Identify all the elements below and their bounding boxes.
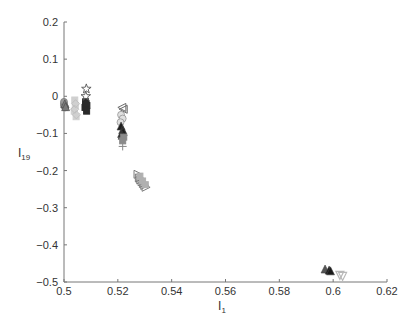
- y-axis-label: I19: [18, 146, 31, 162]
- y-tick-label: −0.4: [36, 239, 58, 251]
- axes: 0.50.520.540.560.580.60.620.20.10−0.1−0.…: [36, 16, 397, 297]
- x-axis-label: I1: [218, 299, 226, 315]
- data-points: [61, 84, 347, 281]
- y-tick-label: 0: [52, 90, 58, 102]
- scatter-chart: 0.50.520.540.560.580.60.620.20.10−0.1−0.…: [0, 0, 416, 326]
- y-tick-label: −0.5: [36, 276, 58, 288]
- x-tick-label: 0.56: [215, 285, 236, 297]
- square-marker: [83, 101, 89, 107]
- square-marker: [142, 182, 148, 188]
- y-tick-label: 0.2: [43, 16, 58, 28]
- x-tick-label: 0.6: [326, 285, 341, 297]
- y-tick-label: −0.2: [36, 165, 58, 177]
- y-tick-label: −0.1: [36, 127, 58, 139]
- x-tick-label: 0.58: [269, 285, 290, 297]
- x-tick-label: 0.52: [107, 285, 128, 297]
- x-tick-label: 0.62: [376, 285, 397, 297]
- x-tick-label: 0.54: [161, 285, 182, 297]
- square-marker: [84, 108, 90, 114]
- x-tick-label: 0.5: [56, 285, 71, 297]
- y-tick-label: −0.3: [36, 202, 58, 214]
- y-tick-label: 0.1: [43, 53, 58, 65]
